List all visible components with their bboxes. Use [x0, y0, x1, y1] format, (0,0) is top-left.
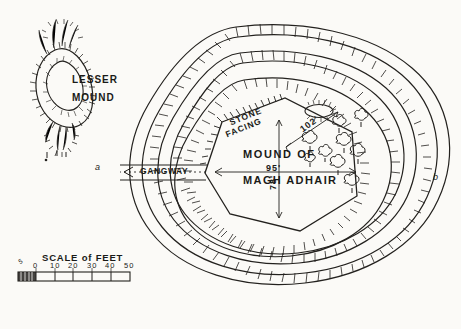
lesser-mound-inner-hachures: [43, 56, 88, 117]
label-lesser-mound-line1: LESSER: [72, 74, 118, 85]
lesser-mound-hachures: [30, 42, 96, 132]
lesser-mound-spur: [44, 122, 79, 157]
lesser-mound-figure: [30, 19, 96, 161]
plan-drawing: [0, 0, 461, 329]
dimension-label-horizontal: 95': [266, 163, 281, 173]
label-magh-adhair: MAGH ADHAIR: [243, 174, 337, 186]
site-plan-plate: LESSER MOUND STONE FACING MOUND OF MAGH …: [0, 0, 461, 329]
label-point-b: b: [433, 172, 439, 182]
scale-tick-label-30: 30: [87, 261, 97, 270]
tree-symbol: [350, 143, 365, 164]
dimension-label-vertical: 78': [268, 175, 278, 190]
scale-tick-label-0: 0: [33, 261, 38, 270]
tree-symbol: [336, 132, 351, 153]
label-point-a: a: [95, 162, 101, 172]
label-gangway: GANGWAY: [140, 166, 188, 176]
scale-tick-label-50: 50: [124, 261, 134, 270]
scale-tick-label-20: 20: [68, 261, 78, 270]
label-mound-of: MOUND OF: [243, 148, 316, 160]
scale-tick-label-40: 40: [105, 261, 115, 270]
label-lesser-mound-line2: MOUND: [72, 92, 115, 103]
scale-tick-label-10: 10: [50, 261, 60, 270]
